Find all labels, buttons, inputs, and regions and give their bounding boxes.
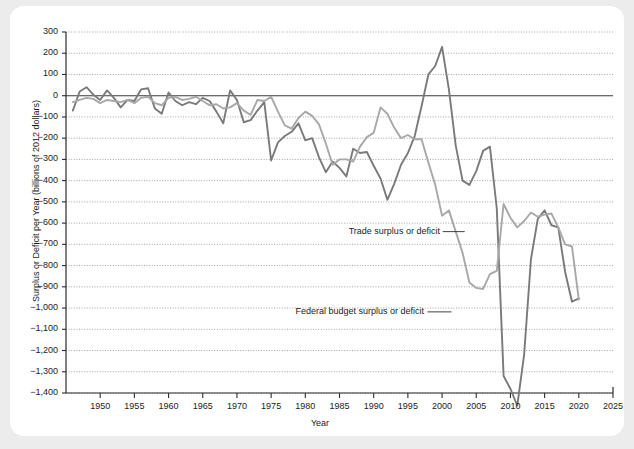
x-axis-label: Year xyxy=(240,418,400,428)
y-tick-label: 200 xyxy=(14,47,58,57)
y-tick-label: 0 xyxy=(14,90,58,100)
annotation-label-trade: Trade surplus or deficit xyxy=(349,226,440,236)
y-tick-label: −1,000 xyxy=(14,302,58,312)
y-tick-label: −200 xyxy=(14,132,58,142)
x-tick-label: 2025 xyxy=(593,401,633,411)
chart-page: Surplus or Deficit per Year (billions of… xyxy=(0,0,634,449)
chart-figure xyxy=(0,0,634,449)
series-lines xyxy=(73,47,579,406)
y-tick-label: −500 xyxy=(14,196,58,206)
y-tick-label: −1,100 xyxy=(14,323,58,333)
y-tick-label: −400 xyxy=(14,175,58,185)
annotation-label-budget: Federal budget surplus or deficit xyxy=(296,306,425,316)
y-tick-label: −100 xyxy=(14,111,58,121)
y-tick-label: −800 xyxy=(14,260,58,270)
y-tick-label: 100 xyxy=(14,68,58,78)
y-tick-label: −600 xyxy=(14,217,58,227)
series-line-trade xyxy=(73,97,579,300)
y-tick-label: −700 xyxy=(14,238,58,248)
y-tick-label: −1,200 xyxy=(14,345,58,355)
y-tick-label: 300 xyxy=(14,26,58,36)
y-tick-label: −1,400 xyxy=(14,387,58,397)
y-tick-label: −300 xyxy=(14,153,58,163)
y-tick-label: −900 xyxy=(14,281,58,291)
y-tick-label: −1,300 xyxy=(14,366,58,376)
tick-marks xyxy=(62,32,613,398)
series-line-budget xyxy=(73,47,579,406)
